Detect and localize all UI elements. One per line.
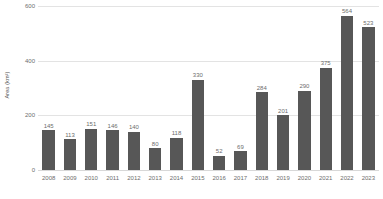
bar[interactable]: 52 <box>213 156 225 170</box>
bar-value-label: 375 <box>321 60 331 66</box>
bar-value-label: 523 <box>363 20 373 26</box>
x-axis-tick-labels: 2008200920102011201220132014201520162017… <box>38 172 379 188</box>
x-axis-tick-label: 2018 <box>251 172 272 188</box>
bar-slot: 564 <box>336 6 357 170</box>
bar[interactable]: 330 <box>192 80 204 170</box>
bar-value-label: 146 <box>108 123 118 129</box>
x-axis-tick-label: 2023 <box>358 172 379 188</box>
bar-slot: 140 <box>123 6 144 170</box>
plot-area: 0200400600 14511315114614080118330526928… <box>14 6 383 199</box>
bar-slot: 146 <box>102 6 123 170</box>
bar[interactable]: 290 <box>298 91 310 170</box>
x-axis-tick-label: 2011 <box>102 172 123 188</box>
y-axis-tick-label: 400 <box>25 58 35 64</box>
bar-series: 1451131511461408011833052692842012903755… <box>38 6 379 170</box>
x-axis-tick-label: 2022 <box>336 172 357 188</box>
y-axis-tick-label: 600 <box>25 3 35 9</box>
bar[interactable]: 201 <box>277 115 289 170</box>
bar-slot: 284 <box>251 6 272 170</box>
x-axis-tick-label: 2012 <box>123 172 144 188</box>
bar-slot: 113 <box>59 6 80 170</box>
x-axis-tick-label: 2017 <box>230 172 251 188</box>
bar-value-label: 69 <box>237 144 244 150</box>
bar-slot: 145 <box>38 6 59 170</box>
bar-slot: 80 <box>145 6 166 170</box>
x-axis-tick-label: 2015 <box>187 172 208 188</box>
y-axis-tick-label: 200 <box>25 112 35 118</box>
x-axis-tick-label: 2021 <box>315 172 336 188</box>
bar-value-label: 151 <box>86 121 96 127</box>
x-axis-tick-label: 2009 <box>59 172 80 188</box>
bar-value-label: 290 <box>299 83 309 89</box>
bar[interactable]: 80 <box>149 148 161 170</box>
bar-slot: 375 <box>315 6 336 170</box>
bar-chart: Area (km²) 0200400600 145113151146140801… <box>0 0 383 199</box>
bar[interactable]: 69 <box>234 151 246 170</box>
bar[interactable]: 118 <box>170 138 182 170</box>
bar-value-label: 330 <box>193 72 203 78</box>
x-axis-tick-label: 2019 <box>272 172 293 188</box>
bar-value-label: 80 <box>152 141 159 147</box>
bar-slot: 69 <box>230 6 251 170</box>
y-axis-tick-labels: 0200400600 <box>14 6 38 170</box>
bar[interactable]: 284 <box>256 92 268 170</box>
bar[interactable]: 151 <box>85 129 97 170</box>
x-axis-tick-label: 2014 <box>166 172 187 188</box>
bar-value-label: 118 <box>172 130 182 136</box>
x-axis-tick-label: 2013 <box>145 172 166 188</box>
bar[interactable]: 146 <box>106 130 118 170</box>
bar-slot: 118 <box>166 6 187 170</box>
bar[interactable]: 140 <box>128 132 140 170</box>
bar-slot: 151 <box>81 6 102 170</box>
bar-slot: 52 <box>209 6 230 170</box>
bar-value-label: 201 <box>278 108 288 114</box>
bar-value-label: 145 <box>44 123 54 129</box>
bar-slot: 290 <box>294 6 315 170</box>
bar-slot: 523 <box>358 6 379 170</box>
bar-value-label: 284 <box>257 85 267 91</box>
bar[interactable]: 523 <box>362 27 374 170</box>
bar-value-label: 140 <box>129 124 139 130</box>
x-axis-tick-label: 2008 <box>38 172 59 188</box>
y-axis-title: Area (km²) <box>0 0 14 170</box>
bar[interactable]: 375 <box>320 68 332 171</box>
x-axis-tick-label: 2020 <box>294 172 315 188</box>
bar-value-label: 564 <box>342 8 352 14</box>
bar-value-label: 113 <box>65 132 75 138</box>
y-axis-tick-label: 0 <box>32 167 35 173</box>
bar-slot: 201 <box>272 6 293 170</box>
x-axis-tick-label: 2016 <box>209 172 230 188</box>
bar[interactable]: 564 <box>341 16 353 170</box>
bar-slot: 330 <box>187 6 208 170</box>
x-axis-tick-label: 2010 <box>81 172 102 188</box>
bar-value-label: 52 <box>216 148 223 154</box>
y-axis-title-text: Area (km²) <box>4 72 10 99</box>
bar[interactable]: 113 <box>64 139 76 170</box>
bar[interactable]: 145 <box>42 130 54 170</box>
axis-baseline <box>38 170 379 171</box>
